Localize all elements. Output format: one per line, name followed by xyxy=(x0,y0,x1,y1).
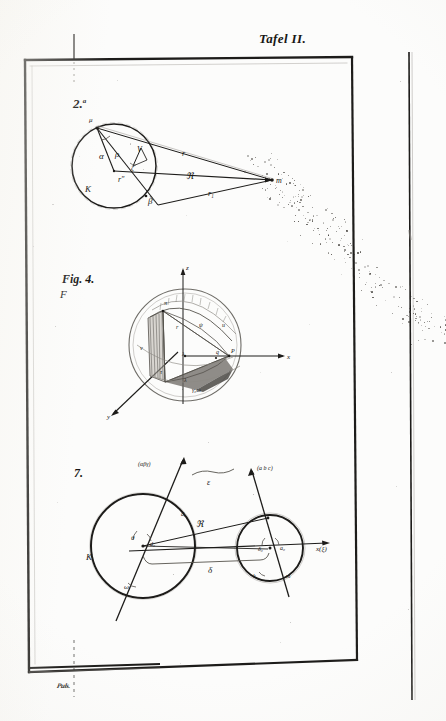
fig4-face-left xyxy=(148,311,165,382)
fig4-axis-z: z xyxy=(185,264,189,272)
fig7-label-omega: ω xyxy=(124,583,129,591)
fig2-superscript: a xyxy=(83,97,87,105)
fig7-label-theta: θ xyxy=(131,534,135,542)
fig4-label-l: λ xyxy=(181,351,185,357)
fig2-number-text: 2. xyxy=(73,96,83,111)
figure-2-number: 2.a xyxy=(73,96,86,112)
fig4-axis-x: x xyxy=(286,353,291,361)
fig2-label-rpp: r″ xyxy=(118,175,125,184)
figure-2-labels: μ α ρ ζ V r ℜ r₁ m K r″ β xyxy=(84,116,282,206)
fig4-label-u: u xyxy=(222,322,225,328)
plate-drawing: μ α ρ ζ V r ℜ r₁ m K r″ β xyxy=(0,0,446,721)
fig7-label-K: K xyxy=(85,552,93,562)
paper-edge xyxy=(409,52,415,700)
fig7-label-d0b: d₀ xyxy=(181,511,186,517)
fig2-label-r: r xyxy=(182,149,186,158)
signature-mark: Puls. xyxy=(56,682,71,690)
fig2-label-r1: r₁ xyxy=(208,189,214,198)
fig7-label-R: ℜ xyxy=(196,519,205,529)
fig2-label-rho: ρ xyxy=(114,149,120,159)
figure-7-number: 7. xyxy=(74,466,83,481)
fig7-label-k: k xyxy=(253,573,256,579)
fig4-label-v: v xyxy=(140,345,143,351)
fig7-label-delta: δ xyxy=(208,565,213,575)
figure-4-sublabel: F xyxy=(60,288,67,300)
fig4-label-r: r xyxy=(176,324,179,330)
fig2-label-beta: β xyxy=(147,196,153,206)
fig4-label-psi: ψ xyxy=(199,322,203,328)
fig4-label-lam2: λ xyxy=(183,377,187,383)
fig7-label-abc: (a b c) xyxy=(257,465,273,472)
fig7-label-m: m xyxy=(286,573,291,579)
fig4-label-p: P xyxy=(230,348,235,354)
fig7-label-a0: a₀ xyxy=(280,545,285,551)
figure-4-number: Fig. 4. xyxy=(62,272,94,287)
fig7-label-x-xi: x(ξ) xyxy=(315,545,327,553)
fig4-axis-y: y xyxy=(106,413,111,421)
plate-page: Tafel II. xyxy=(0,0,446,721)
fig7-label-delta0: δ₀ xyxy=(258,546,263,552)
figure-4-drawing xyxy=(111,268,285,416)
figure-2-drawing xyxy=(71,123,274,210)
fig4-label-gamma0: γ₀ω xyxy=(192,387,201,393)
fig7-label-d0: d₀ xyxy=(150,541,155,547)
fig7-label-abg: (αβγ) xyxy=(138,461,151,468)
fig2-label-alpha: α xyxy=(99,151,104,161)
figure-4-labels: z x y π r ψ u v λ τ λ q P γ₀ω xyxy=(106,264,291,421)
fig4-label-q: q xyxy=(216,349,219,355)
figure-7-labels: (αβγ) (a b c) x(ξ) ℜ ε δ K θ d₀ ω d₀ δ₀ … xyxy=(85,461,327,591)
fig7-label-epsilon: ε xyxy=(207,478,211,487)
fig2-label-mu: μ xyxy=(89,116,93,124)
fig2-label-K: K xyxy=(84,184,92,194)
